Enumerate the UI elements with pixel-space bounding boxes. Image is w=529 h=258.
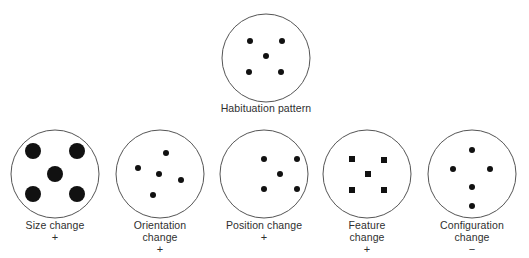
position-change-circle [220, 130, 308, 218]
dot-element [69, 143, 85, 159]
square-element [349, 156, 355, 162]
test-patterns-row [11, 130, 516, 218]
configuration-change-label: Configuration change − [417, 219, 527, 255]
orientation-change-label: Orientation change + [105, 219, 215, 255]
result-sign: − [417, 243, 527, 255]
dot-element [156, 171, 162, 177]
square-element [349, 187, 355, 193]
square-element [365, 171, 371, 177]
habituation-panel [222, 14, 310, 102]
habituation-pattern-label: Habituation pattern [211, 102, 321, 114]
dot-element [277, 171, 283, 177]
position-change-label: Position change + [209, 219, 319, 243]
result-sign: + [209, 231, 319, 243]
feature-change-panel [323, 130, 411, 218]
label-line: Size change [0, 219, 110, 231]
dot-element [469, 184, 475, 190]
feature-change-label: Feature change + [312, 219, 422, 255]
label-line: Position change [209, 219, 319, 231]
dot-element [247, 38, 253, 44]
dot-element [261, 186, 267, 192]
label-line: Habituation pattern [211, 102, 321, 114]
dot-element [25, 186, 41, 202]
dot-element [469, 147, 475, 153]
result-sign: + [105, 243, 215, 255]
label-line: change [105, 231, 215, 243]
dot-element [246, 69, 252, 75]
dot-element [69, 186, 85, 202]
dot-element [263, 53, 269, 59]
label-line: Feature [312, 219, 422, 231]
label-line: Configuration [417, 219, 527, 231]
label-line: change [312, 231, 422, 243]
dot-element [294, 186, 300, 192]
dot-element [487, 166, 493, 172]
dot-element [278, 69, 284, 75]
dot-element [150, 192, 156, 198]
configuration-change-panel [428, 130, 516, 218]
dot-element [294, 156, 300, 162]
dot-element [450, 166, 456, 172]
result-sign: + [312, 243, 422, 255]
label-line: Orientation [105, 219, 215, 231]
result-sign: + [0, 231, 110, 243]
dot-element [135, 165, 141, 171]
dot-element [279, 38, 285, 44]
habituation-diagram: Habituation pattern Size change + Orient… [0, 0, 529, 258]
dot-element [261, 156, 267, 162]
size-change-panel [11, 130, 99, 218]
square-element [381, 157, 387, 163]
dot-element [178, 177, 184, 183]
square-element [381, 187, 387, 193]
dot-element [25, 143, 41, 159]
dot-element [469, 203, 475, 209]
orientation-change-panel [116, 130, 204, 218]
size-change-label: Size change + [0, 219, 110, 243]
habituation-pattern-panel [222, 14, 310, 102]
dot-element [163, 150, 169, 156]
dot-element [47, 166, 63, 182]
position-change-panel [220, 130, 308, 218]
label-line: change [417, 231, 527, 243]
